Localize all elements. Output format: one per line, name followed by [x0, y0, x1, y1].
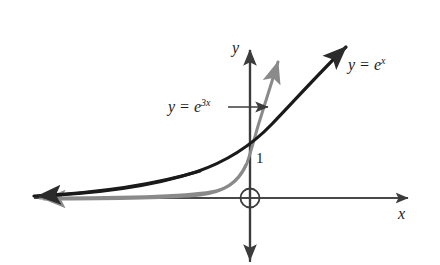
curve-ex-left-tail [38, 171, 200, 196]
curve-label-ex-exponent: x [381, 55, 385, 66]
y-axis-label: y [232, 40, 239, 56]
curve-label-e3x: y = e3x [168, 99, 210, 115]
y-intercept-tick-label: 1 [256, 151, 264, 166]
plot-canvas [0, 0, 440, 265]
x-axis-label: x [398, 206, 405, 222]
curve-e3x [40, 62, 278, 198]
exponential-graph-figure: y = e3x y = ex y x 1 [0, 0, 440, 265]
curve-label-e3x-exponent: 3x [201, 97, 210, 108]
curve-label-ex-base: y = e [348, 56, 381, 73]
curve-label-ex: y = ex [348, 57, 385, 73]
curve-label-e3x-base: y = e [168, 98, 201, 115]
